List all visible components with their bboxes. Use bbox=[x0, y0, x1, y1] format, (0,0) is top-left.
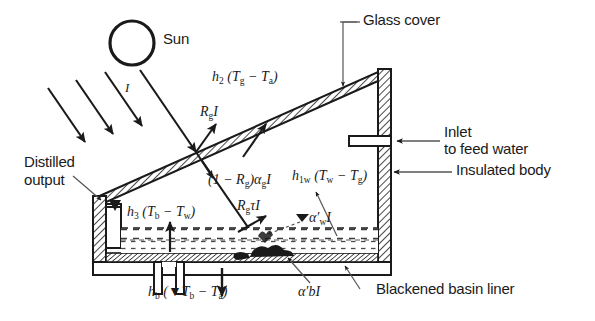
label-hb-bottom-loss: hb (▼Tb − Ta) bbox=[148, 284, 227, 300]
label-glass-absorption: (1 − Rg)αgI bbox=[208, 172, 271, 188]
basin-water bbox=[121, 228, 378, 253]
label-water-absorption: α′wI bbox=[309, 210, 331, 226]
inlet-feed-pipe bbox=[349, 136, 391, 146]
label-inlet-line2: to feed water bbox=[444, 141, 528, 158]
label-glass-transmission: RgτI bbox=[237, 198, 260, 214]
distillate-collection-channel bbox=[106, 204, 121, 248]
label-distilled-line1: Distilled bbox=[24, 154, 75, 171]
label-h1w-water-glass: h1w (Tw − Tg) bbox=[292, 168, 367, 184]
label-basin-absorption: α′bI bbox=[298, 284, 320, 300]
label-h3-basin-water: h3 (Tb − Tw) bbox=[127, 204, 195, 220]
sun-icon bbox=[110, 21, 154, 65]
label-glass-reflection: RgI bbox=[200, 104, 218, 120]
label-h2-glass-ambient: h2 (Tg − Ta) bbox=[212, 69, 278, 85]
label-inlet-line1: Inlet bbox=[444, 124, 471, 141]
arrowhead-alpha-w-i bbox=[296, 214, 309, 222]
label-blackened-basin-liner: Blackened basin liner bbox=[376, 281, 514, 298]
label-distilled-line2: output bbox=[24, 172, 65, 189]
label-glass-cover: Glass cover bbox=[363, 12, 440, 29]
label-insulated-body: Insulated body bbox=[456, 162, 551, 179]
label-incident-radiation: I bbox=[125, 81, 129, 96]
label-sun: Sun bbox=[163, 31, 189, 48]
right-insulated-wall bbox=[378, 69, 391, 275]
solar-still-diagram-page: Sun Glass cover Inlet to feed water Insu… bbox=[0, 0, 595, 321]
